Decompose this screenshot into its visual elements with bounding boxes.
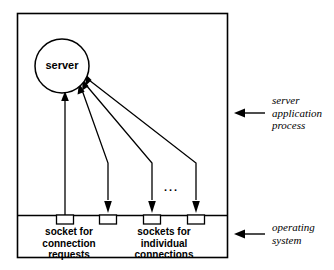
annotation-server-application-process: server application process bbox=[272, 94, 322, 132]
socket-box-0 bbox=[57, 215, 74, 224]
socket-box-3 bbox=[188, 215, 205, 224]
socket-box-1 bbox=[100, 215, 117, 224]
socket-group-label-connections: sockets for individual connections bbox=[119, 226, 209, 261]
callout-arrow-process bbox=[234, 109, 265, 118]
socket-box-2 bbox=[144, 215, 161, 224]
socket-group-label-listening: socket for connection requests bbox=[24, 226, 114, 261]
diagram-canvas: server ... socket for connection request… bbox=[0, 0, 334, 270]
callout-arrow-os bbox=[234, 230, 265, 239]
annotation-operating-system: operating system bbox=[272, 221, 315, 246]
server-node-label: server bbox=[32, 59, 92, 71]
ellipsis-indicator: ... bbox=[164, 181, 179, 193]
